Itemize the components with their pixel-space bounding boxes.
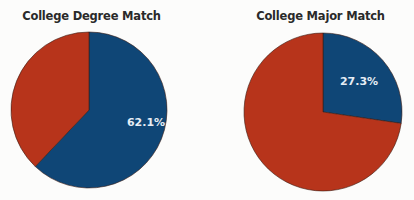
slice-label: 27.3% [340,75,378,88]
slice-label: 62.1% [127,116,165,129]
pie-slices [11,32,167,188]
pie-chart: 27.3% [207,0,414,200]
pie-chart: 62.1% [0,0,207,200]
college-degree-match-chart: College Degree Match 62.1% [0,0,207,200]
college-major-match-chart: College Major Match 27.3% [207,0,414,200]
pie-slices [244,33,402,191]
